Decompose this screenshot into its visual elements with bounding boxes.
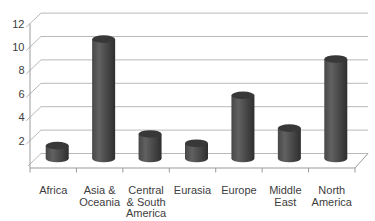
- category-label-asia-oceania: Asia &Oceania: [79, 184, 121, 208]
- bar-top-europe: [231, 92, 254, 100]
- bar-chart-figure: 24681012AfricaAsia &OceaniaCentral& Sout…: [0, 0, 375, 221]
- category-label-eurasia: Eurasia: [174, 184, 212, 196]
- bar-middle-east: [278, 124, 301, 162]
- category-label-europe: Europe: [221, 184, 256, 196]
- y-axis-label-2: 2: [18, 135, 24, 147]
- gridline-8: [26, 60, 368, 74]
- y-axis-label-4: 4: [18, 111, 24, 123]
- bar-body-north-america: [324, 59, 347, 158]
- bar-bottom-middle-east: [278, 155, 301, 163]
- gridline-4: [26, 107, 368, 121]
- bar-eurasia: [185, 139, 208, 162]
- bar-europe: [231, 92, 254, 163]
- bar-top-africa: [46, 142, 69, 150]
- gridline-6: [26, 83, 368, 97]
- bar-bottom-central-south-america: [139, 155, 162, 163]
- category-label-middle-east: MiddleEast: [269, 184, 301, 208]
- y-axis-label-8: 8: [18, 64, 24, 76]
- bar-body-middle-east: [278, 128, 301, 158]
- category-label-central-south-america: Central& SouthAmerica: [126, 184, 167, 219]
- bar-bottom-africa: [46, 155, 69, 163]
- bar-bottom-eurasia: [185, 155, 208, 163]
- bar-body-europe: [231, 95, 254, 158]
- bar-bottom-europe: [231, 155, 254, 163]
- category-label-north-america: NorthAmerica: [312, 184, 353, 208]
- bar-north-america: [324, 55, 347, 162]
- bar-top-asia-oceania: [92, 35, 115, 43]
- chart-canvas: 24681012AfricaAsia &OceaniaCentral& Sout…: [0, 0, 375, 221]
- bar-asia-oceania: [92, 35, 115, 162]
- bar-body-asia-oceania: [92, 39, 115, 158]
- y-axis-label-6: 6: [18, 88, 24, 100]
- bar-top-middle-east: [278, 124, 301, 132]
- category-label-africa: Africa: [39, 184, 68, 196]
- floor-right-edge: [355, 154, 368, 169]
- bar-bottom-asia-oceania: [92, 155, 115, 163]
- bar-top-north-america: [324, 55, 347, 63]
- bar-top-eurasia: [185, 139, 208, 147]
- bar-africa: [46, 142, 69, 162]
- bar-top-central-south-america: [139, 130, 162, 138]
- bar-bottom-north-america: [324, 155, 347, 163]
- gridline-12: [26, 13, 368, 27]
- y-axis-label-12: 12: [12, 18, 24, 30]
- y-axis-label-10: 10: [12, 41, 24, 53]
- gridline-10: [26, 37, 368, 51]
- bar-central-south-america: [139, 130, 162, 162]
